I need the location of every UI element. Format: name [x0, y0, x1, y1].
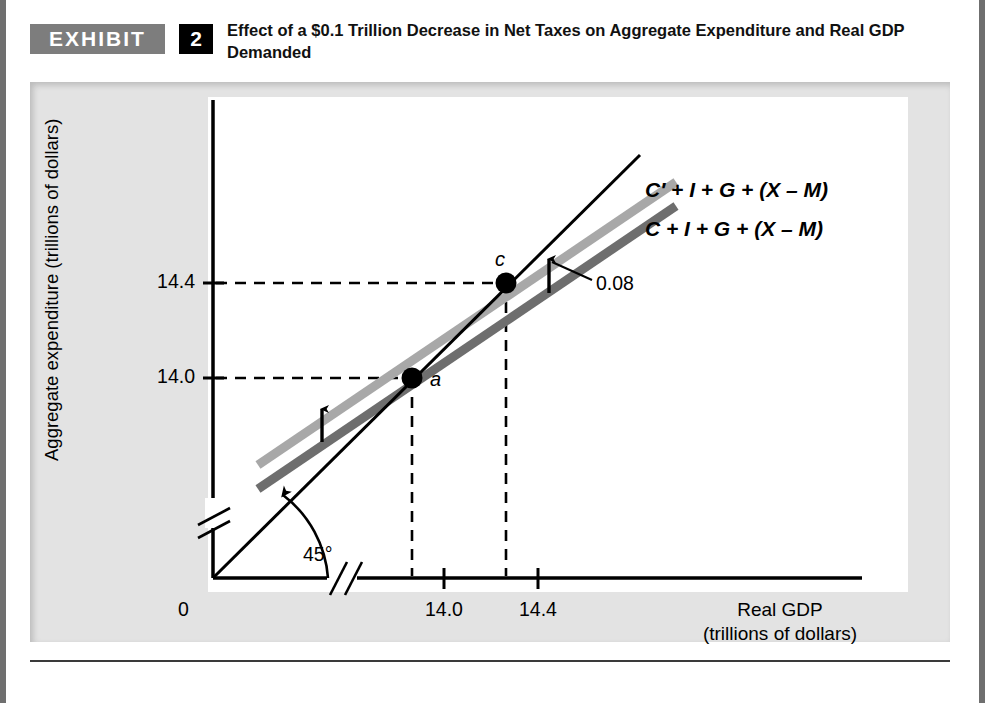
page-edge-left — [0, 0, 6, 703]
x-tick-label-14-0: 14.0 — [409, 598, 479, 621]
chart-panel — [30, 82, 950, 642]
point-label-c: c — [495, 248, 505, 271]
y-axis-title-text: Aggregate expenditure — [41, 274, 62, 461]
shift-amount-label: 0.08 — [596, 272, 634, 295]
exhibit-header: EXHIBIT 2 Effect of a $0.1 Trillion Decr… — [22, 18, 927, 74]
x-axis-title-text: Real GDP — [620, 598, 940, 622]
point-label-a: a — [430, 368, 441, 391]
x-axis-title: Real GDP (trillions of dollars) — [620, 598, 940, 646]
exhibit-figure: EXHIBIT 2 Effect of a $0.1 Trillion Decr… — [0, 0, 985, 703]
curve-label-original: C + I + G + (X – M) — [645, 217, 823, 241]
curve-label-shifted: C′ + I + G + (X – M) — [645, 178, 828, 202]
y-axis-title-units: (trillions of dollars) — [41, 119, 62, 269]
page-edge-right — [979, 0, 985, 703]
y-axis-title: Aggregate expenditure (trillions of doll… — [41, 161, 63, 461]
exhibit-tag-label: EXHIBIT — [30, 24, 165, 54]
x-axis-title-units: (trillions of dollars) — [620, 622, 940, 646]
angle-label: 45° — [303, 543, 333, 566]
x-tick-label-14-4: 14.4 — [503, 598, 573, 621]
exhibit-number-badge: 2 — [179, 24, 213, 54]
plot-area-background — [208, 97, 908, 592]
bottom-separator-rule — [30, 660, 950, 662]
y-tick-label-14-4: 14.4 — [125, 270, 195, 293]
y-tick-label-14-0: 14.0 — [125, 365, 195, 388]
origin-label: 0 — [178, 598, 189, 621]
exhibit-title: Effect of a $0.1 Trillion Decrease in Ne… — [227, 20, 927, 64]
